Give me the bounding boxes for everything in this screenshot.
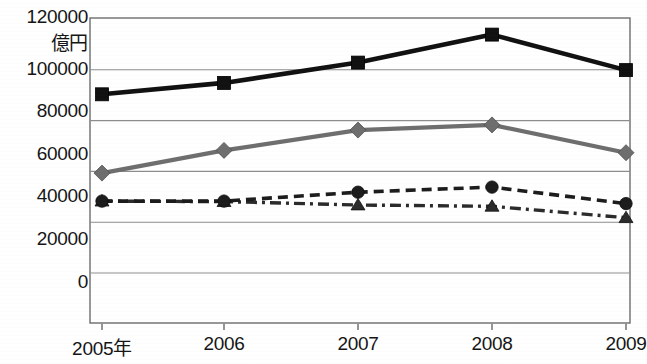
line-chart: 120000 億円 100000 80000 60000 40000 20000… [0, 0, 647, 364]
x-axis-ticks [102, 324, 626, 330]
chart-canvas [0, 0, 647, 364]
